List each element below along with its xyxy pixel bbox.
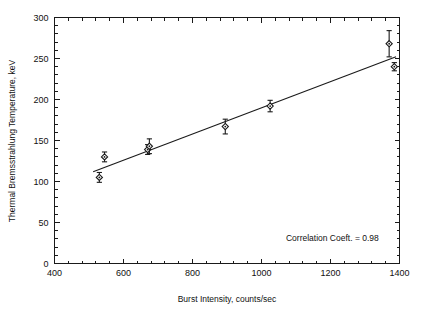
x-tick-label: 1200: [320, 268, 340, 278]
y-tick-label: 300: [33, 13, 48, 23]
x-axis-label: Burst Intensity, counts/sec: [178, 294, 277, 304]
y-tick-label: 150: [33, 136, 48, 146]
x-tick-label: 1400: [389, 268, 409, 278]
plot-background: [0, 0, 426, 315]
correlation-annotation: Correlation Coeft. = 0.98: [286, 233, 379, 243]
y-tick-label: 250: [33, 54, 48, 64]
y-tick-label: 0: [43, 259, 48, 269]
scatter-plot: 400600800100012001400 050100150200250300…: [0, 0, 426, 315]
marker-center-dot: [98, 177, 100, 179]
x-tick-label: 800: [185, 268, 200, 278]
marker-center-dot: [224, 126, 226, 128]
figure-container: 400600800100012001400 050100150200250300…: [0, 0, 426, 315]
x-tick-label: 1000: [251, 268, 271, 278]
chart-annotations: Correlation Coeft. = 0.98: [286, 233, 379, 243]
y-axis-label: Thermal Bremsstrahlung Temperature, keV: [7, 59, 17, 222]
y-tick-label: 50: [38, 218, 48, 228]
marker-center-dot: [104, 156, 106, 158]
y-tick-label: 100: [33, 177, 48, 187]
marker-center-dot: [148, 145, 150, 147]
x-tick-label: 400: [47, 268, 62, 278]
marker-center-dot: [269, 105, 271, 107]
y-tick-label: 200: [33, 95, 48, 105]
x-tick-label: 600: [116, 268, 131, 278]
marker-center-dot: [393, 66, 395, 68]
marker-center-dot: [388, 43, 390, 45]
